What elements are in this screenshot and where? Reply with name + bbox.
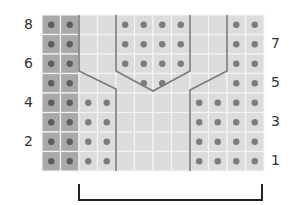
chart-cell xyxy=(190,74,209,94)
purl-dot-icon xyxy=(104,139,110,145)
chart-cell xyxy=(79,74,98,94)
purl-dot-icon xyxy=(85,100,91,106)
purl-dot-icon xyxy=(159,61,165,67)
purl-dot-icon xyxy=(252,22,258,28)
purl-dot-icon xyxy=(67,158,73,164)
chart-cell xyxy=(116,132,135,152)
chart-cell xyxy=(153,93,172,113)
chart-cell xyxy=(190,35,209,55)
purl-dot-icon xyxy=(122,61,128,67)
chart-cell xyxy=(190,15,209,35)
purl-dot-icon xyxy=(67,139,73,145)
purl-dot-icon xyxy=(233,61,239,67)
chart-cell xyxy=(116,152,135,172)
purl-dot-icon xyxy=(252,80,258,86)
purl-dot-icon xyxy=(178,22,184,28)
purl-dot-icon xyxy=(67,41,73,47)
purl-dot-icon xyxy=(215,139,221,145)
purl-dot-icon xyxy=(122,41,128,47)
chart-grid xyxy=(42,15,264,171)
purl-dot-icon xyxy=(48,80,54,86)
purl-dot-icon xyxy=(48,119,54,125)
chart-cell xyxy=(153,152,172,172)
chart-cell xyxy=(98,54,117,74)
chart-cell xyxy=(79,35,98,55)
purl-dot-icon xyxy=(48,22,54,28)
purl-dot-icon xyxy=(196,158,202,164)
purl-dot-icon xyxy=(233,41,239,47)
purl-dot-icon xyxy=(48,61,54,67)
purl-dot-icon xyxy=(233,80,239,86)
purl-dot-icon xyxy=(233,158,239,164)
chart-cell xyxy=(79,54,98,74)
purl-dot-icon xyxy=(215,158,221,164)
purl-dot-icon xyxy=(252,41,258,47)
row-number-label: 1 xyxy=(271,153,280,167)
chart-cell xyxy=(98,15,117,35)
row-number-label: 4 xyxy=(24,95,33,109)
purl-dot-icon xyxy=(104,158,110,164)
repeat-bracket-line xyxy=(79,184,262,200)
chart-cell xyxy=(190,54,209,74)
purl-dot-icon xyxy=(196,119,202,125)
purl-dot-icon xyxy=(48,100,54,106)
chart-cell xyxy=(135,93,154,113)
purl-dot-icon xyxy=(159,22,165,28)
purl-dot-icon xyxy=(233,22,239,28)
row-number-label: 3 xyxy=(271,114,280,128)
purl-dot-icon xyxy=(215,100,221,106)
chart-cell xyxy=(153,113,172,133)
purl-dot-icon xyxy=(233,119,239,125)
purl-dot-icon xyxy=(85,119,91,125)
purl-dot-icon xyxy=(85,139,91,145)
purl-dot-icon xyxy=(67,119,73,125)
purl-dot-icon xyxy=(159,41,165,47)
purl-dot-icon xyxy=(67,100,73,106)
chart-cell xyxy=(135,113,154,133)
chart-cell xyxy=(98,74,117,94)
chart-cell xyxy=(172,113,191,133)
purl-dot-icon xyxy=(104,100,110,106)
repeat-bracket xyxy=(79,184,262,200)
chart-cell xyxy=(98,35,117,55)
purl-dot-icon xyxy=(141,61,147,67)
chart-cell xyxy=(209,54,228,74)
purl-dot-icon xyxy=(141,22,147,28)
row-number-label: 7 xyxy=(271,36,280,50)
purl-dot-icon xyxy=(252,139,258,145)
purl-dot-icon xyxy=(233,139,239,145)
purl-dot-icon xyxy=(178,41,184,47)
purl-dot-icon xyxy=(122,22,128,28)
chart-cell xyxy=(135,152,154,172)
row-number-label: 2 xyxy=(24,134,33,148)
chart-cell xyxy=(172,152,191,172)
knitting-chart xyxy=(0,0,291,205)
purl-dot-icon xyxy=(252,100,258,106)
row-number-label: 5 xyxy=(271,75,280,89)
chart-cell xyxy=(153,132,172,152)
purl-dot-icon xyxy=(67,61,73,67)
chart-cell xyxy=(209,35,228,55)
chart-cell xyxy=(172,93,191,113)
purl-dot-icon xyxy=(252,158,258,164)
purl-dot-icon xyxy=(178,61,184,67)
purl-dot-icon xyxy=(48,158,54,164)
purl-dot-icon xyxy=(48,41,54,47)
chart-cell xyxy=(135,132,154,152)
chart-cell xyxy=(172,132,191,152)
row-number-label: 6 xyxy=(24,56,33,70)
purl-dot-icon xyxy=(104,119,110,125)
purl-dot-icon xyxy=(215,119,221,125)
chart-cell xyxy=(209,15,228,35)
purl-dot-icon xyxy=(252,61,258,67)
purl-dot-icon xyxy=(252,119,258,125)
purl-dot-icon xyxy=(85,158,91,164)
chart-cell xyxy=(116,113,135,133)
chart-cell xyxy=(116,93,135,113)
row-number-label: 8 xyxy=(24,17,33,31)
purl-dot-icon xyxy=(233,100,239,106)
purl-dot-icon xyxy=(67,80,73,86)
purl-dot-icon xyxy=(196,100,202,106)
purl-dot-icon xyxy=(141,41,147,47)
purl-dot-icon xyxy=(67,22,73,28)
